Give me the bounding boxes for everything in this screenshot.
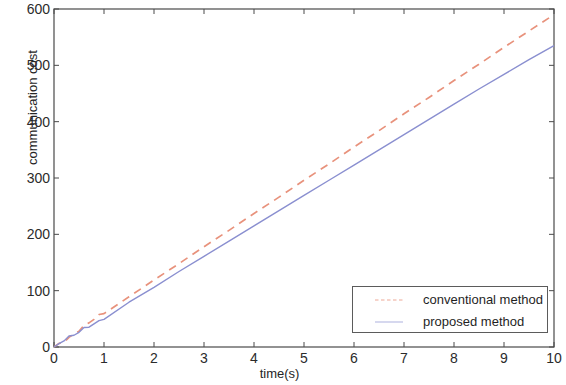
legend: conventional method proposed method	[352, 286, 548, 333]
legend-label: proposed method	[423, 314, 524, 329]
x-tick-label: 5	[289, 350, 319, 366]
legend-label: conventional method	[423, 292, 543, 307]
y-tick-label: 300	[2, 170, 50, 186]
y-tick-label: 200	[2, 226, 50, 242]
legend-swatch-solid	[361, 321, 417, 323]
legend-swatch-dashed	[361, 299, 417, 301]
x-tick-label: 4	[239, 350, 269, 366]
legend-item-conventional-method: conventional method	[353, 288, 547, 311]
y-tick-labels: 0100200300400500600	[0, 0, 50, 385]
x-tick-label: 0	[39, 350, 69, 366]
x-tick-label: 7	[389, 350, 419, 366]
x-tick-label: 3	[189, 350, 219, 366]
y-tick-label: 500	[2, 57, 50, 73]
x-tick-label: 10	[539, 350, 566, 366]
y-tick-label: 600	[2, 1, 50, 17]
x-axis-label: time(s)	[0, 366, 559, 381]
y-tick-label: 400	[2, 114, 50, 130]
y-tick-label: 100	[2, 283, 50, 299]
x-tick-label: 1	[89, 350, 119, 366]
legend-item-proposed-method: proposed method	[353, 310, 547, 333]
x-tick-label: 9	[489, 350, 519, 366]
x-tick-label: 2	[139, 350, 169, 366]
x-tick-label: 8	[439, 350, 469, 366]
x-tick-label: 6	[339, 350, 369, 366]
